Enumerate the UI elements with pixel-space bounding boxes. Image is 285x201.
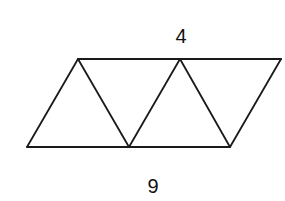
diagonal-3 xyxy=(180,59,230,147)
parallelogram-diagram xyxy=(0,0,285,201)
diagonal-2 xyxy=(129,59,180,147)
diagram-segments xyxy=(27,59,281,147)
bottom-length-label: 9 xyxy=(147,176,158,196)
top-length-label: 4 xyxy=(175,26,186,46)
diagonal-1 xyxy=(78,59,129,147)
left-edge xyxy=(27,59,78,147)
right-edge xyxy=(230,59,281,147)
